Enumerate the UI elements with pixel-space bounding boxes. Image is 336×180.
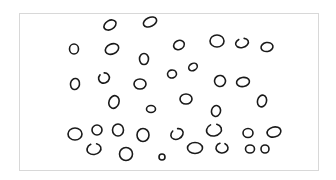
hand-drawn-circle <box>235 37 250 49</box>
hand-drawn-circle <box>97 71 111 85</box>
hand-drawn-circle <box>246 145 255 153</box>
hand-drawn-circle <box>261 145 269 153</box>
hand-drawn-circle <box>260 42 273 53</box>
hand-drawn-circle <box>216 143 228 153</box>
hand-drawn-circle <box>180 94 192 104</box>
hand-drawn-circle <box>140 54 149 65</box>
circles-group <box>68 15 282 161</box>
hand-drawn-circle <box>68 128 82 140</box>
hand-drawn-circle <box>104 42 121 57</box>
hand-drawn-circles-canvas <box>0 0 336 180</box>
hand-drawn-circle <box>113 124 124 136</box>
hand-drawn-circle <box>159 154 165 160</box>
hand-drawn-circle <box>187 62 198 73</box>
hand-drawn-circle <box>134 79 146 89</box>
hand-drawn-circle <box>243 129 253 138</box>
hand-drawn-circle <box>86 143 102 156</box>
hand-drawn-circle <box>236 76 250 87</box>
hand-drawn-circle <box>102 18 118 32</box>
hand-drawn-circle <box>256 94 268 108</box>
hand-drawn-circle <box>169 127 185 142</box>
hand-drawn-circle <box>210 105 222 118</box>
hand-drawn-circle <box>210 35 224 47</box>
hand-drawn-circle <box>142 15 158 29</box>
hand-drawn-circle <box>120 148 133 161</box>
hand-drawn-circle <box>147 106 156 113</box>
hand-drawn-circle <box>70 44 79 54</box>
hand-drawn-circle <box>214 75 227 88</box>
hand-drawn-circle <box>188 143 203 154</box>
hand-drawn-circle <box>172 39 186 52</box>
hand-drawn-circle <box>266 125 282 138</box>
hand-drawn-circle <box>107 94 121 110</box>
hand-drawn-circle <box>137 129 149 142</box>
hand-drawn-circle <box>206 123 223 137</box>
hand-drawn-circle <box>92 125 102 135</box>
hand-drawn-circle <box>167 69 178 79</box>
hand-drawn-circle <box>70 78 81 90</box>
